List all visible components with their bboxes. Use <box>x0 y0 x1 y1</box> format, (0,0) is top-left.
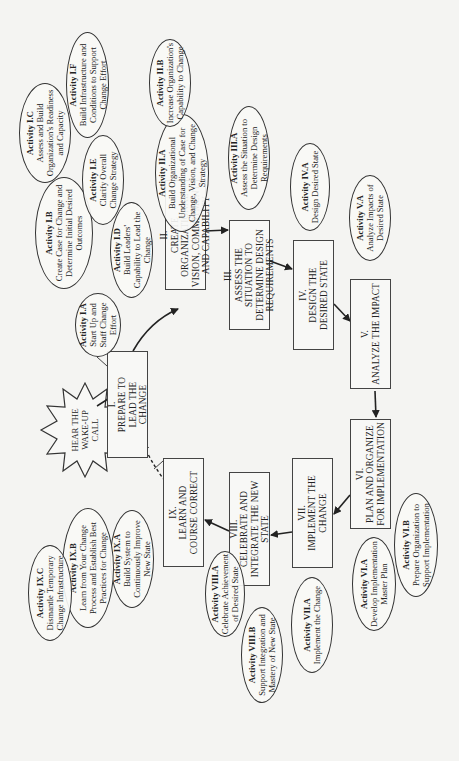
activity-title: Activity IX.C <box>35 568 45 618</box>
wake-up-call-label: HEAR THE WAKE-UP CALL <box>70 402 100 458</box>
activity-IIB[interactable]: Activity II.B Increase Organization's Ca… <box>149 39 191 127</box>
activity-title: Activity VIII.A <box>210 565 220 622</box>
activity-IC[interactable]: Activity I.C Assess and Build Organizati… <box>19 83 71 183</box>
phase-9-box[interactable]: IX. LEARN AND COURSE CORRECT <box>163 458 204 567</box>
activity-title: Activity II.B <box>155 60 165 107</box>
activity-desc: Support Integration and Mastery of New S… <box>257 609 277 701</box>
activity-IIIA[interactable]: Activity III.A Assess the Situation to D… <box>228 106 270 210</box>
activity-title: Activity II.A <box>157 149 167 196</box>
activity-IIA[interactable]: Activity II.A Build Organizational Under… <box>155 114 209 232</box>
activity-title: Activity VII.A <box>302 598 312 652</box>
activity-title: Activity I.B <box>44 211 54 255</box>
activity-VIA[interactable]: Activity VI.A Develop Implementation Mas… <box>352 537 396 631</box>
phase-title: CELEBRATE AND INTEGRATE THE NEW STATE <box>239 474 271 584</box>
activity-desc: Analyze Impacts of Desired State <box>365 181 385 255</box>
phase-number: IV. <box>298 289 309 300</box>
activity-title: Activity VI.B <box>401 520 411 570</box>
activity-IF[interactable]: Activity I.F Build Infrastructure and Co… <box>66 32 109 138</box>
activity-IA[interactable]: Activity I.A Start Up and Staff Change E… <box>75 293 121 357</box>
activity-IXA[interactable]: Activity IX.A Build System to Continuous… <box>110 510 154 608</box>
phase-number: II. <box>159 231 170 240</box>
activity-desc: Celebrate Achievement of Desired State <box>220 552 240 636</box>
phase-title: PREPARE TO LEAD THE CHANGE <box>117 366 149 444</box>
activity-desc: Start Up and Staff Change Effort <box>88 298 118 352</box>
phase-number: VI. <box>355 468 366 480</box>
activity-IXC[interactable]: Activity IX.C Dismantle Temporary Change… <box>28 545 72 641</box>
activity-desc: Create Case for Change and Determine Ini… <box>54 181 84 285</box>
activity-desc: Prepare Organization to Support Implemen… <box>411 496 431 594</box>
activity-desc: Build Leaders' Capability to Lead the Ch… <box>122 210 152 290</box>
activity-desc: Develop Implementation Master Plan <box>369 539 389 629</box>
activity-title: Activity VI.A <box>359 559 369 609</box>
activity-desc: Learn from Your Change Process and Estab… <box>78 516 108 620</box>
activity-desc: Assess the Situation to Determine Design… <box>239 111 269 205</box>
activity-desc: Assess and Build Organization's Readines… <box>35 86 65 180</box>
activity-desc: Design Desired State <box>310 146 320 228</box>
activity-title: Activity I.F <box>68 64 78 107</box>
activity-desc: Dismantle Temporary Change Infrastructur… <box>45 549 65 637</box>
phase-number: IX. <box>168 506 179 518</box>
phase-number: VIII. <box>229 520 240 539</box>
phase-6-box[interactable]: VI. PLAN AND ORGANIZE FOR IMPLEMENTATION <box>350 419 391 529</box>
activity-title: Activity V.A <box>355 195 365 241</box>
activity-title: Activity I.A <box>78 303 88 347</box>
activity-title: Activity IV.A <box>300 162 310 211</box>
activity-title: Activity VIII.B <box>247 627 257 684</box>
phase-title: LEARN AND COURSE CORRECT <box>178 471 199 555</box>
phase-number: VII. <box>297 505 308 521</box>
activity-IVA[interactable]: Activity IV.A Design Desired State <box>290 143 330 231</box>
phase-title: DESIGN THE DESIRED STATE <box>308 255 329 335</box>
phase-1-box[interactable]: I. PREPARE TO LEAD THE CHANGE <box>107 351 148 458</box>
activity-VIIIB[interactable]: Activity VIII.B Support Integration and … <box>241 607 283 703</box>
activity-desc: Clarify Overall Change Strategy <box>98 144 118 216</box>
change-process-diagram: HEAR THE WAKE-UP CALL I. PREPARE TO LEAD… <box>0 0 459 761</box>
activity-VA[interactable]: Activity V.A Analyze Impacts of Desired … <box>349 175 391 261</box>
phase-5-box[interactable]: V. ANALYZE THE IMPACT <box>350 279 391 389</box>
activity-VIIA[interactable]: Activity VII.A Implement the Change <box>291 577 333 673</box>
phase-7-box[interactable]: VII. IMPLEMENT THE CHANGE <box>292 458 333 568</box>
activity-desc: Build System to Continuously Improve New… <box>122 515 152 603</box>
phase-4-box[interactable]: IV. DESIGN THE DESIRED STATE <box>293 240 334 350</box>
activity-desc: Implement the Change <box>312 580 322 670</box>
phase-3-box[interactable]: III. ASSESS THE SITUATION TO DETERMINE D… <box>229 220 270 330</box>
activity-desc: Build Infrastructure and Conditions to S… <box>78 35 108 135</box>
phase-number: I. <box>107 402 118 408</box>
phase-title: PLAN AND ORGANIZE FOR IMPLEMENTATION <box>365 421 386 527</box>
activity-desc: Increase Organization's Capability to Ch… <box>165 41 185 125</box>
activity-title: Activity III.A <box>229 133 239 184</box>
phase-number: III. <box>223 269 234 281</box>
activity-ID[interactable]: Activity I.D Build Leaders' Capability t… <box>110 202 153 298</box>
phase-title: IMPLEMENT THE CHANGE <box>307 460 328 566</box>
activity-VIIIA[interactable]: Activity VIII.A Celebrate Achievement of… <box>205 551 245 637</box>
activity-VIB[interactable]: Activity VI.B Prepare Organization to Su… <box>394 493 438 597</box>
start-label: HEAR THE WAKE-UP CALL <box>70 408 100 451</box>
activity-title: Activity I.E <box>88 158 98 202</box>
phase-title: ASSESS THE SITUATION TO DETERMINE DESIGN… <box>234 222 276 328</box>
activity-IE[interactable]: Activity I.E Clarify Overall Change Stra… <box>82 135 124 225</box>
activity-title: Activity I.C <box>25 111 35 155</box>
activity-title: Activity I.D <box>112 228 122 272</box>
activity-desc: Build Organizational Understanding of Ca… <box>167 123 207 223</box>
phase-title: ANALYZE THE IMPACT <box>371 281 382 387</box>
phase-number: V. <box>360 330 371 338</box>
